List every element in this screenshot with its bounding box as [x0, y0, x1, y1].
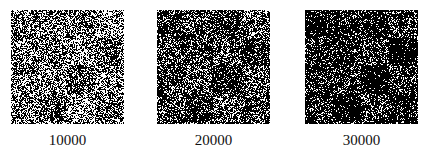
noise-image-3: [305, 10, 418, 124]
noise-panel-3: [305, 10, 418, 124]
caption-3: 30000: [305, 132, 418, 149]
noise-panel-2: [157, 10, 270, 124]
caption-2: 20000: [157, 132, 270, 149]
noise-panel-1: [11, 10, 124, 124]
noise-image-2: [157, 10, 270, 124]
caption-1: 10000: [11, 132, 124, 149]
noise-image-1: [11, 10, 124, 124]
